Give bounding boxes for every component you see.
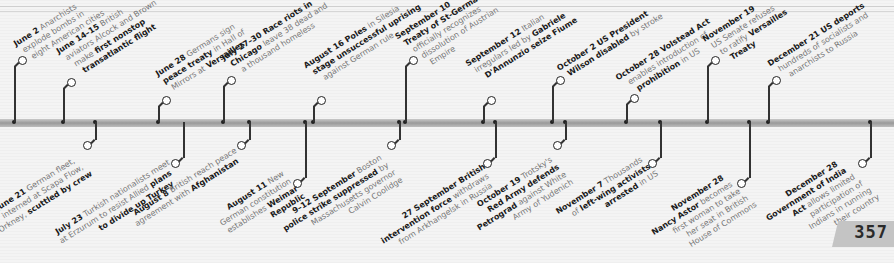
event-marker-circle [317,96,326,105]
page-number: 357 [854,222,888,242]
timeline-bar [0,119,894,127]
event-label: November 7 Thousands of left-wing activi… [554,152,660,234]
event-marker-circle [553,141,562,150]
event-marker-circle [83,141,92,150]
event-marker-circle [162,96,171,105]
event-label: November 28 Nancy Astor becomes first wo… [644,166,758,263]
event-marker-circle [237,141,246,150]
event-marker-circle [487,96,496,105]
event-marker-circle [387,141,396,150]
